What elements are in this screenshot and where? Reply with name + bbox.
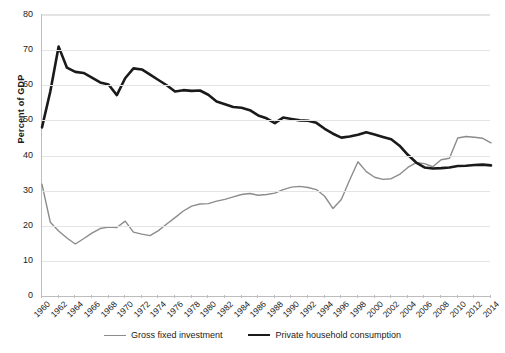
- x-tick-mark: [324, 295, 325, 298]
- y-tick-label: 60: [0, 79, 33, 89]
- gridline: [42, 50, 490, 51]
- x-tick-mark: [257, 295, 258, 298]
- x-tick-mark: [357, 295, 358, 298]
- legend-label: Gross fixed investment: [131, 330, 223, 340]
- x-tick-mark: [108, 295, 109, 298]
- x-tick-mark: [473, 295, 474, 298]
- x-tick-mark: [440, 295, 441, 298]
- gridline: [42, 261, 490, 262]
- x-tick-mark: [340, 295, 341, 298]
- series-line: [42, 47, 491, 169]
- y-tick-label: 30: [0, 185, 33, 195]
- y-tick-label: 0: [0, 290, 33, 300]
- x-tick-mark: [174, 295, 175, 298]
- y-tick-label: 40: [0, 150, 33, 160]
- plot-area: [41, 14, 490, 295]
- x-tick-mark: [74, 295, 75, 298]
- x-tick-mark: [41, 295, 42, 298]
- gridline: [42, 85, 490, 86]
- legend-item[interactable]: Gross fixed investment: [104, 330, 223, 340]
- x-tick-mark: [157, 295, 158, 298]
- legend-swatch-icon: [248, 334, 270, 336]
- x-tick-mark: [58, 295, 59, 298]
- gridline: [42, 156, 490, 157]
- x-tick-mark: [374, 295, 375, 298]
- x-tick-mark: [124, 295, 125, 298]
- legend-swatch-icon: [104, 335, 126, 336]
- x-tick-mark: [241, 295, 242, 298]
- y-tick-label: 20: [0, 220, 33, 230]
- x-tick-mark: [141, 295, 142, 298]
- x-tick-mark: [457, 295, 458, 298]
- legend-item[interactable]: Private household consumption: [248, 330, 401, 340]
- y-tick-label: 70: [0, 44, 33, 54]
- gridline: [42, 120, 490, 121]
- x-tick-mark: [423, 295, 424, 298]
- line-chart: Percent of GDP 01020304050607080 1960196…: [0, 0, 505, 353]
- gridline: [42, 191, 490, 192]
- x-tick-mark: [274, 295, 275, 298]
- x-tick-mark: [307, 295, 308, 298]
- x-tick-mark: [490, 295, 491, 298]
- x-tick-mark: [91, 295, 92, 298]
- x-tick-mark: [290, 295, 291, 298]
- y-tick-label: 10: [0, 255, 33, 265]
- x-tick-mark: [407, 295, 408, 298]
- gridline: [42, 226, 490, 227]
- x-tick-mark: [224, 295, 225, 298]
- chart-legend: Gross fixed investmentPrivate household …: [0, 330, 505, 340]
- x-tick-mark: [191, 295, 192, 298]
- legend-label: Private household consumption: [275, 330, 401, 340]
- x-tick-mark: [207, 295, 208, 298]
- gridline: [42, 15, 490, 16]
- y-tick-label: 80: [0, 9, 33, 19]
- x-tick-mark: [390, 295, 391, 298]
- y-tick-label: 50: [0, 114, 33, 124]
